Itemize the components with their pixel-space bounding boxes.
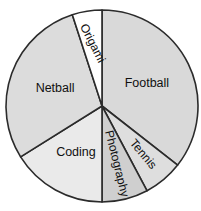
pie-slice-label-football: Football [125, 76, 169, 90]
pie-slice-label-netball: Netball [36, 81, 75, 95]
pie-chart-canvas: FootballTennisPhotographyCodingNetballOr… [0, 0, 201, 211]
pie-slices-group [6, 10, 198, 202]
pie-slice-label-coding: Coding [56, 145, 96, 159]
pie-chart: FootballTennisPhotographyCodingNetballOr… [0, 0, 201, 211]
